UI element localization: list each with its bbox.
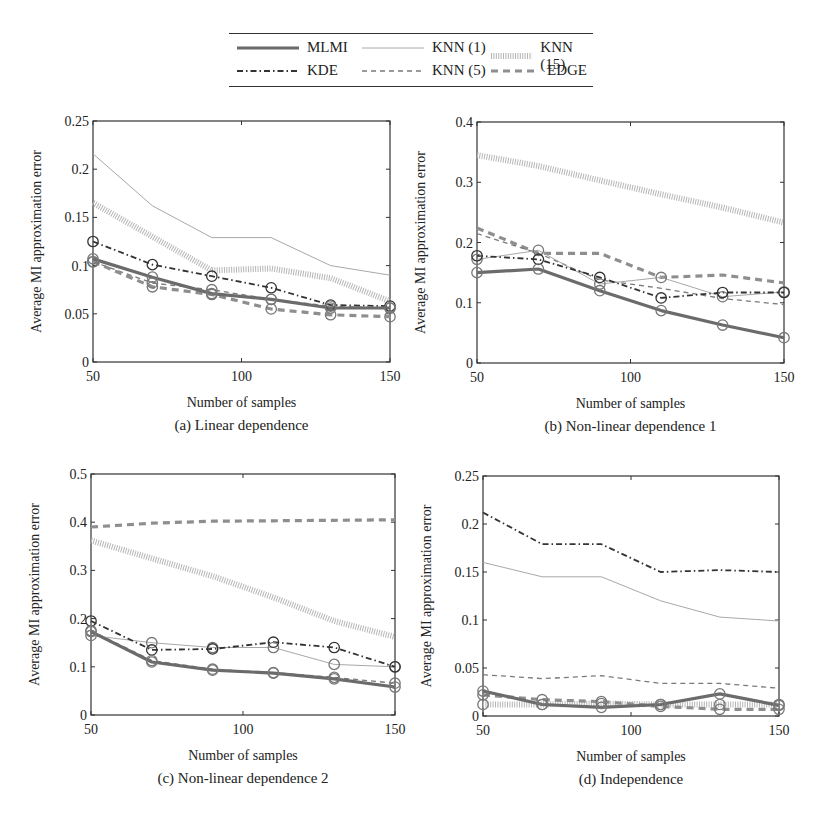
y-axis-label: Average MI approximation error [29,150,44,333]
y-tick-label: 0.25 [65,114,90,129]
series-line-knn5 [91,631,395,684]
y-tick-label: 0 [82,355,89,370]
y-tick-label: 0.25 [455,469,480,484]
y-tick-label: 0.1 [70,660,88,675]
series-line-mlmi [483,691,779,707]
y-tick-label: 0 [472,709,479,724]
x-tick-label: 150 [769,723,790,738]
x-tick-label: 50 [476,723,490,738]
series-line-knn15 [93,203,390,301]
y-tick-label: 0.2 [456,236,474,251]
panel-c-non-linear-dependence-2: 00.10.20.30.40.550100150Number of sample… [27,467,406,787]
panel-a-linear-dependence: 00.050.10.150.20.2550100150Number of sam… [29,114,401,434]
y-tick-label: 0.1 [462,613,480,628]
x-tick-label: 50 [86,369,100,384]
x-axis-label: Number of samples [576,749,686,764]
x-tick-label: 100 [621,723,642,738]
panel-caption: (a) Linear dependence [174,417,308,434]
series-line-knn15 [91,541,395,637]
y-axis-label: Average MI approximation error [413,151,428,334]
figure-canvas: 00.050.10.150.20.2550100150Number of sam… [0,0,818,824]
series-line-mlmi [477,269,784,338]
series-line-knn1 [93,154,390,275]
y-tick-label: 0.4 [456,115,474,130]
y-tick-label: 0.15 [65,210,90,225]
y-tick-label: 0.2 [462,517,480,532]
y-axis-label: Average MI approximation error [27,503,42,686]
y-tick-label: 0.3 [456,175,474,190]
x-tick-label: 100 [620,370,641,385]
y-tick-label: 0.15 [455,565,480,580]
y-tick-label: 0.05 [455,661,480,676]
series-line-edge [91,520,395,527]
panel-caption: (b) Non-linear dependence 1 [544,418,716,435]
series-line-knn5 [483,675,779,689]
x-tick-label: 150 [774,370,795,385]
y-tick-label: 0 [80,708,87,723]
panel-caption: (d) Independence [579,771,684,788]
panel-caption: (c) Non-linear dependence 2 [157,770,328,787]
plot-frame [91,474,395,715]
y-axis-label: Average MI approximation error [419,504,434,687]
x-tick-label: 150 [380,369,401,384]
y-tick-label: 0.4 [70,515,88,530]
panel-b-non-linear-dependence-1: 00.10.20.30.450100150Number of samplesAv… [413,115,795,435]
panel-d-independence: 00.050.10.150.20.2550100150Number of sam… [419,469,790,788]
series-line-mlmi [91,632,395,687]
plot-frame [93,121,390,362]
series-line-kde [91,621,395,667]
series-line-knn15 [477,155,784,223]
series-line-knn1 [477,250,784,296]
y-tick-label: 0 [466,356,473,371]
series-line-knn1 [91,636,395,667]
series-line-kde [483,513,779,573]
x-axis-label: Number of samples [187,395,297,410]
x-axis-label: Number of samples [188,748,298,763]
x-tick-label: 100 [233,722,254,737]
y-tick-label: 0.3 [70,563,88,578]
y-tick-label: 0.1 [72,259,90,274]
y-tick-label: 0.5 [70,467,88,482]
x-axis-label: Number of samples [576,396,686,411]
series-line-edge [477,228,784,283]
y-tick-label: 0.2 [72,162,90,177]
x-tick-label: 100 [231,369,252,384]
y-tick-label: 0.05 [65,307,90,322]
x-tick-label: 150 [385,722,406,737]
x-tick-label: 50 [84,722,98,737]
x-tick-label: 50 [470,370,484,385]
y-tick-label: 0.2 [70,612,88,627]
y-tick-label: 0.1 [456,296,474,311]
